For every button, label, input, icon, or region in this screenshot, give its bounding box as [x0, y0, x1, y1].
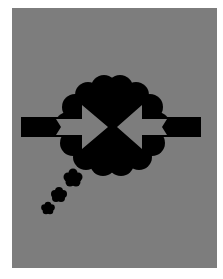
thought-puff-medium	[51, 187, 67, 202]
thought-bubble-artwork	[0, 0, 223, 279]
thought-puff-large	[64, 169, 83, 187]
thought-puff-small	[41, 202, 55, 215]
